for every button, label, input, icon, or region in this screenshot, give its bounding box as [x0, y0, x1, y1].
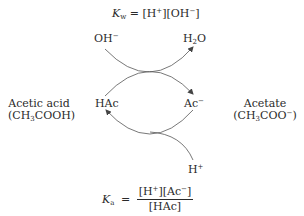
acetate-to-hac-arrow: [106, 110, 193, 134]
proton-input-arrow: [150, 132, 193, 160]
hac-to-acetate-arrow: [105, 71, 193, 96]
hydroxide-to-water-arrow: [105, 47, 193, 72]
reaction-arrows: [0, 0, 304, 216]
